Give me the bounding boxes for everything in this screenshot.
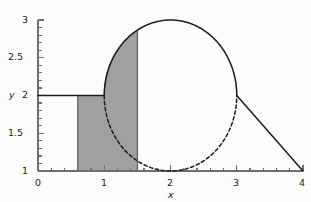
- y-tick-label-1: 1: [22, 166, 28, 176]
- y-tick-label-2p5: 2.5: [8, 52, 23, 62]
- y-tick-label-2: 2: [22, 90, 28, 100]
- x-tick-label-3: 3: [233, 178, 239, 188]
- x-tick-label-2: 2: [167, 178, 173, 188]
- plot-canvas: [0, 0, 311, 202]
- chart-figure: 3 2.5 2 1.5 1 0 1 2 3 4 y x: [0, 0, 311, 202]
- shaded-region: [78, 30, 138, 171]
- x-axis-title: x: [168, 190, 174, 200]
- x-tick-label-0: 0: [35, 178, 41, 188]
- y-tick-label-3: 3: [22, 15, 28, 25]
- y-axis-title: y: [9, 90, 15, 100]
- x-tick-label-1: 1: [101, 178, 107, 188]
- x-tick-label-4: 4: [299, 178, 305, 188]
- y-tick-label-1p5: 1.5: [8, 128, 23, 138]
